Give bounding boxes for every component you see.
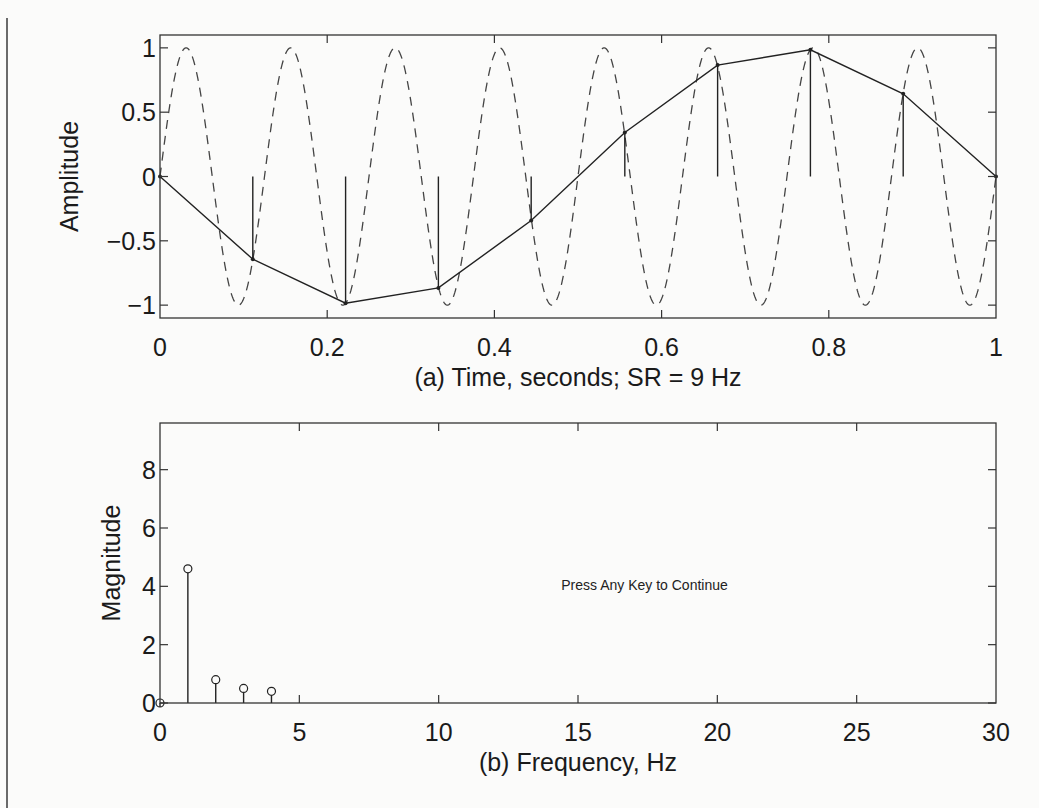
x-tick-label: 30 bbox=[982, 718, 1010, 746]
x-tick-label: 5 bbox=[292, 718, 306, 746]
plot-b-axes-box bbox=[160, 423, 996, 703]
press-any-key-prompt: Press Any Key to Continue bbox=[561, 577, 728, 593]
y-tick-label: 4 bbox=[142, 572, 156, 600]
spectrum-marker-circle bbox=[240, 684, 248, 692]
x-tick-label: 25 bbox=[843, 718, 871, 746]
spectrum-marker-circle bbox=[212, 676, 220, 684]
x-tick-label: 0.2 bbox=[310, 333, 345, 361]
x-tick-label: 10 bbox=[425, 718, 453, 746]
plot-a-time-domain: 00.20.40.60.8110.50−0.5−1 (a) Time, seco… bbox=[55, 34, 1003, 391]
plot-b-data bbox=[156, 565, 275, 707]
y-tick-label: 2 bbox=[142, 631, 156, 659]
spectrum-marker-circle bbox=[267, 687, 275, 695]
y-tick-label: 6 bbox=[142, 514, 156, 542]
plot-a-y-axis-label: Amplitude bbox=[55, 121, 83, 232]
plot-b-x-axis-label: (b) Frequency, Hz bbox=[479, 748, 677, 776]
sampled-signal-line bbox=[160, 50, 996, 303]
y-tick-label: 1 bbox=[142, 34, 156, 62]
plot-a-x-axis-label: (a) Time, seconds; SR = 9 Hz bbox=[414, 363, 741, 391]
x-tick-label: 0 bbox=[153, 333, 167, 361]
spectrum-marker-circle bbox=[184, 565, 192, 573]
x-tick-label: 0.8 bbox=[811, 333, 846, 361]
y-tick-label: −1 bbox=[127, 291, 156, 319]
y-tick-label: 0.5 bbox=[121, 98, 156, 126]
plot-a-data bbox=[158, 48, 998, 305]
plot-b-y-axis-label: Magnitude bbox=[97, 505, 125, 622]
x-tick-label: 1 bbox=[989, 333, 1003, 361]
plot-b-frequency-domain: 05101520253002468 (b) Frequency, Hz Magn… bbox=[97, 423, 1010, 776]
x-tick-label: 0.6 bbox=[644, 333, 679, 361]
x-tick-label: 20 bbox=[703, 718, 731, 746]
figure: 00.20.40.60.8110.50−0.5−1 (a) Time, seco… bbox=[0, 0, 1039, 808]
x-tick-label: 0 bbox=[153, 718, 167, 746]
y-tick-label: −0.5 bbox=[107, 227, 156, 255]
y-tick-label: 0 bbox=[142, 689, 156, 717]
y-tick-label: 0 bbox=[142, 163, 156, 191]
x-tick-label: 15 bbox=[564, 718, 592, 746]
x-tick-label: 0.4 bbox=[477, 333, 512, 361]
y-tick-label: 8 bbox=[142, 456, 156, 484]
